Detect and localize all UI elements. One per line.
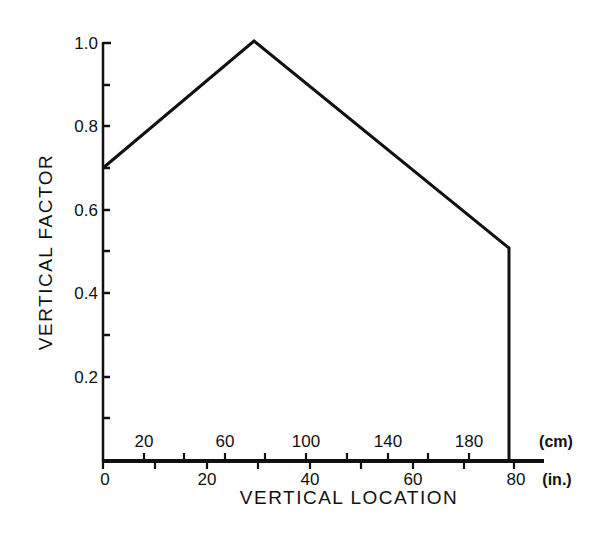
x-cm-tick-label: 20 bbox=[135, 432, 154, 451]
y-tick-label: 0.2 bbox=[74, 368, 98, 387]
x-cm-tick-label: 180 bbox=[455, 432, 483, 451]
vertical-factor-chart: 1.0 0.8 0.6 0.4 0.2 VERTICAL FACTOR bbox=[0, 0, 604, 533]
x-in-tick-label: 20 bbox=[198, 470, 217, 489]
x-cm-tick-label: 140 bbox=[374, 432, 402, 451]
x-in-tick-label: 80 bbox=[507, 470, 526, 489]
x-cm-tick-labels: 20 60 100 140 180 (cm) bbox=[135, 432, 573, 451]
x-cm-unit-label: (cm) bbox=[539, 433, 573, 450]
y-tick-label: 0.6 bbox=[74, 201, 98, 220]
vertical-factor-line bbox=[103, 41, 509, 461]
x-axis bbox=[102, 453, 544, 469]
x-cm-tick-label: 100 bbox=[292, 432, 320, 451]
x-in-tick-label: 0 bbox=[100, 470, 109, 489]
y-axis-title: VERTICAL FACTOR bbox=[35, 154, 56, 350]
x-cm-tick-label: 60 bbox=[216, 432, 235, 451]
x-in-unit-label: (in.) bbox=[542, 471, 571, 488]
y-tick-labels: 1.0 0.8 0.6 0.4 0.2 bbox=[74, 34, 98, 387]
y-tick-label: 1.0 bbox=[74, 34, 98, 53]
y-axis bbox=[103, 42, 111, 462]
y-tick-label: 0.8 bbox=[74, 117, 98, 136]
x-axis-title: VERTICAL LOCATION bbox=[240, 487, 458, 508]
y-tick-label: 0.4 bbox=[74, 284, 98, 303]
